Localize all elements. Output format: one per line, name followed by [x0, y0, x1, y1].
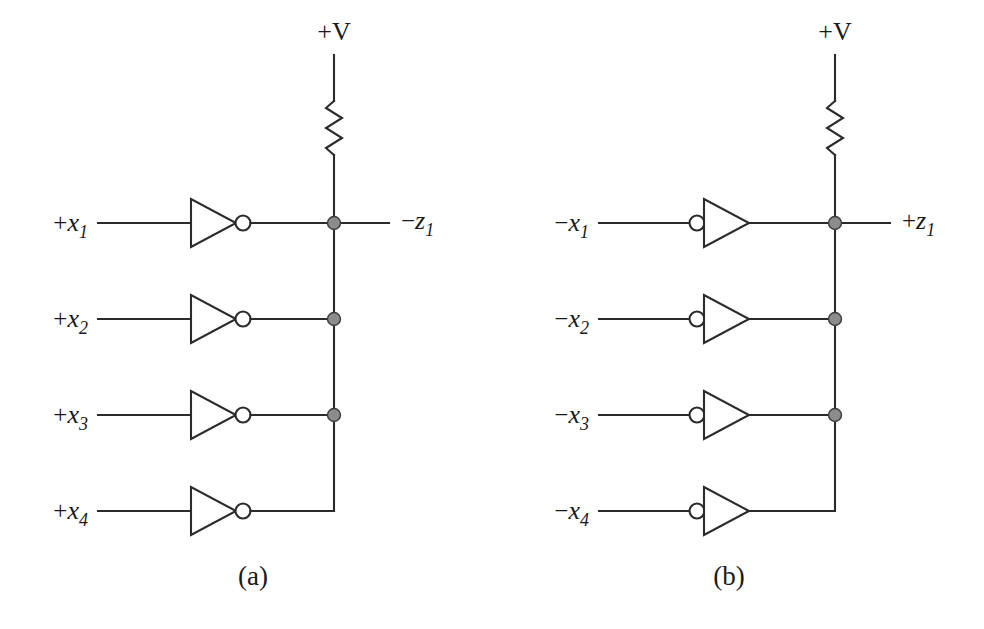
inverter-triangle-b-1 [704, 199, 749, 247]
inverter-triangle-a-3 [191, 391, 236, 439]
supply-branch-b [827, 55, 843, 223]
inverter-bubble-a-1 [236, 216, 251, 231]
pull-up-resistor-b [827, 101, 843, 155]
inverter-triangle-b-4 [704, 487, 749, 535]
circuit-diagram: +x1 +x2 +x3 +x4 −z1 +V (a) [0, 0, 984, 629]
panel-caption-a: (a) [238, 561, 268, 591]
input-label-b-2: −x2 [554, 304, 589, 338]
inverter-bubble-b-1 [690, 216, 705, 231]
figure-root: +x1 +x2 +x3 +x4 −z1 +V (a) [0, 0, 984, 629]
input-label-b-3: −x3 [554, 400, 589, 434]
inverter-stage-b-2 [599, 295, 842, 343]
inverter-stage-a-4 [98, 487, 334, 535]
inverter-triangle-b-3 [704, 391, 749, 439]
panel-caption-b: (b) [713, 561, 744, 591]
inverter-bubble-b-3 [690, 408, 705, 423]
inverter-bubble-b-4 [690, 504, 705, 519]
inverter-stage-b-4 [599, 487, 835, 535]
input-label-a-3: +x3 [53, 400, 88, 434]
junction-dot-a-1 [328, 217, 341, 230]
inverter-bubble-a-4 [236, 504, 251, 519]
junction-dot-b-1 [829, 217, 842, 230]
inverter-triangle-a-2 [191, 295, 236, 343]
inverter-stage-a-2 [98, 295, 341, 343]
junction-dot-b-2 [829, 313, 842, 326]
supply-label-a: +V [317, 17, 351, 46]
supply-branch-a [326, 55, 342, 223]
input-label-a-1: +x1 [53, 208, 88, 242]
pull-up-resistor-a [326, 101, 342, 155]
output-label-a: −z1 [401, 206, 434, 240]
input-label-b-4: −x4 [554, 496, 589, 530]
junction-dot-a-2 [328, 313, 341, 326]
inverter-bubble-a-3 [236, 408, 251, 423]
output-label-b: +z1 [902, 206, 935, 240]
supply-label-b: +V [818, 17, 852, 46]
inverter-stage-a-3 [98, 391, 341, 439]
input-label-a-4: +x4 [53, 496, 88, 530]
panel-a: +x1 +x2 +x3 +x4 −z1 +V (a) [53, 17, 434, 591]
inverter-bubble-b-2 [690, 312, 705, 327]
input-label-b-1: −x1 [554, 208, 589, 242]
input-label-a-2: +x2 [53, 304, 88, 338]
inverter-stage-b-3 [599, 391, 842, 439]
panel-b: −x1 −x2 −x3 −x4 +z1 +V (b) [554, 17, 935, 591]
inverter-bubble-a-2 [236, 312, 251, 327]
inverter-triangle-a-4 [191, 487, 236, 535]
inverter-stage-b-1 [599, 199, 842, 247]
inverter-stage-a-1 [98, 199, 341, 247]
junction-dot-a-3 [328, 409, 341, 422]
junction-dot-b-3 [829, 409, 842, 422]
inverter-triangle-b-2 [704, 295, 749, 343]
inverter-triangle-a-1 [191, 199, 236, 247]
